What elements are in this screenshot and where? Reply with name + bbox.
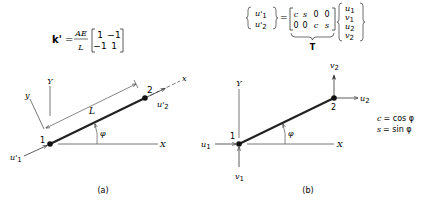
angle-label: φ: [288, 129, 294, 138]
dimension-tick: [134, 80, 138, 88]
local-x-label: x: [182, 74, 187, 83]
bar-element: [239, 98, 334, 144]
equals-sign: =: [65, 34, 73, 45]
global-y-label: Y: [236, 79, 242, 88]
matrix-cell: 0: [313, 10, 318, 19]
lhs-u1-prime: u'1: [255, 9, 267, 20]
matrix-cell: 0: [293, 21, 298, 30]
local-y-axis: [30, 99, 44, 129]
angle-arc: [95, 124, 97, 144]
rhs-v2: v2: [345, 31, 354, 42]
matrix-cell: −1: [93, 41, 106, 51]
node-2: [331, 95, 337, 101]
u2-label: u2: [360, 94, 370, 105]
local-y-label: y: [24, 91, 30, 100]
u1-prime-arrow: [24, 146, 47, 157]
u1-label: u1: [201, 140, 211, 151]
v2-label: v2: [330, 61, 339, 72]
equals-sign: =: [280, 13, 288, 23]
k-prime-symbol: k': [52, 34, 62, 45]
v1-label: v1: [235, 172, 244, 183]
stiffness-equation: k' = AE L 1 −1 −1 1: [52, 29, 123, 52]
matrix-cell: 0: [302, 21, 307, 30]
u2-prime-label: u'2: [157, 100, 169, 111]
u1-prime-label: u'1: [10, 153, 22, 164]
truss-element-diagram: k' = AE L 1 −1 −1 1 Y X y L x: [0, 0, 425, 202]
cos-definition: c= cos φ: [377, 114, 414, 123]
global-x-label: X: [159, 140, 166, 149]
transformation-matrix-label: T: [310, 43, 316, 52]
matrix-cell: −1: [107, 30, 120, 40]
node-1: [236, 141, 242, 147]
length-label: L: [88, 106, 95, 116]
underbrace: [291, 33, 334, 40]
node-2-label: 2: [331, 103, 336, 112]
angle-label: φ: [100, 129, 106, 138]
node-1-label: 1: [230, 132, 235, 141]
matrix-cell: c: [314, 21, 319, 30]
global-y-label: Y: [47, 77, 53, 86]
transformation-equation: u'1 u'2 = c s 0 0 0 0 c s T u1 v1 u2 v2: [246, 3, 365, 52]
node-2: [142, 95, 148, 101]
fraction-numerator: AE: [74, 29, 87, 38]
angle-arc: [283, 124, 285, 144]
matrix-cell: 1: [97, 30, 103, 40]
sin-definition: s= sin φ: [377, 125, 412, 134]
node-1-label: 1: [40, 136, 45, 145]
panel-b: u'1 u'2 = c s 0 0 0 0 c s T u1 v1 u2 v2: [201, 3, 414, 195]
matrix-cell: c: [294, 10, 299, 19]
node-2-label: 2: [147, 85, 153, 95]
matrix-cell: 0: [324, 10, 329, 19]
global-x-label: X: [336, 140, 343, 149]
caption-a: (a): [97, 186, 108, 195]
panel-a: k' = AE L 1 −1 −1 1 Y X y L x: [10, 29, 187, 195]
matrix-cell: 1: [111, 41, 117, 51]
fraction-denominator: L: [77, 43, 83, 52]
matrix-cell: s: [303, 10, 307, 19]
lhs-u2-prime: u'2: [255, 20, 267, 31]
node-1: [47, 141, 53, 147]
matrix-cell: s: [325, 21, 329, 30]
caption-b: (b): [302, 186, 313, 195]
